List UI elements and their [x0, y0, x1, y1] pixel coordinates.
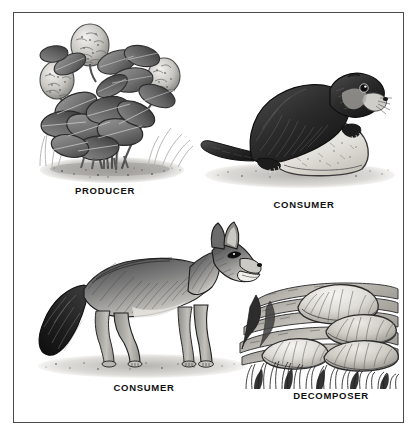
panel-consumer-marmot: [192, 41, 397, 201]
caption-consumer-marmot: CONSUMER: [273, 199, 334, 210]
panel-producer: [24, 18, 199, 193]
figure-border: PRODUCER: [13, 12, 404, 423]
marmot-nose: [383, 97, 388, 101]
ground-shadow: [38, 354, 246, 378]
ecosystem-roles-figure: PRODUCER: [0, 0, 417, 431]
panel-decomposer: [240, 265, 400, 390]
clover-plant-illustration: [24, 18, 199, 193]
coyote-ear-far: [211, 223, 225, 249]
coyote-hind-paw-far: [102, 361, 116, 367]
coyote-tail: [39, 285, 88, 355]
coyote-illustration: [22, 203, 262, 388]
panel-consumer-coyote: [22, 203, 262, 388]
caption-consumer-coyote: CONSUMER: [113, 382, 174, 393]
marmot-eye: [360, 84, 368, 92]
caption-producer: PRODUCER: [75, 185, 135, 196]
coyote-front-leg-far: [178, 307, 194, 363]
marmot-eye-highlight: [364, 85, 366, 87]
marmot-illustration: [192, 41, 397, 201]
coyote-eye-highlight: [233, 253, 235, 255]
coyote-front-leg-near: [194, 305, 212, 363]
caption-decomposer: DECOMPOSER: [293, 390, 369, 401]
bracket-fungi-illustration: [240, 265, 400, 390]
